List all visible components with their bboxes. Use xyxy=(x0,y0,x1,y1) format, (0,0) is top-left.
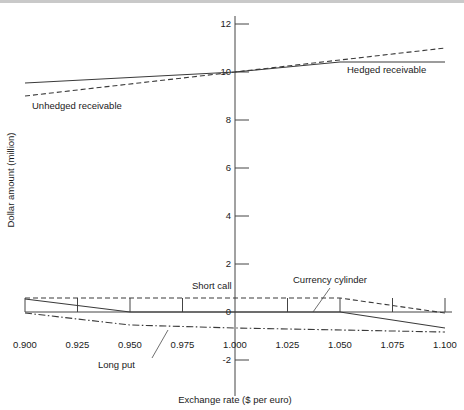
y-tick-label-2: 2 xyxy=(226,258,231,269)
y-tick-label-8: 8 xyxy=(226,114,231,125)
annotation-short-call: Short call xyxy=(192,280,232,291)
chart-figure: 12 10 8 6 4 2 0 -2 0.900 0.925 0.950 0.9… xyxy=(0,0,464,410)
y-tick-labels: 12 10 8 6 4 2 0 -2 xyxy=(220,18,231,365)
x-tick-label-1075: 1.075 xyxy=(381,339,405,350)
x-tick-label-0975: 0.975 xyxy=(171,339,195,350)
y-axis-title: Dollar amount (million) xyxy=(5,132,16,227)
x-tick-label-1100: 1.100 xyxy=(433,339,457,350)
y-tick-label-minus2: -2 xyxy=(223,354,231,365)
y-tick-label-6: 6 xyxy=(226,162,231,173)
x-axis-title: Exchange rate ($ per euro) xyxy=(178,394,292,405)
annotation-currency-cylinder: Currency cylinder xyxy=(293,274,367,285)
x-tick-labels: 0.900 0.925 0.950 0.975 1.000 1.025 1.05… xyxy=(13,339,457,350)
y-tick-label-4: 4 xyxy=(226,210,231,221)
x-tick-label-1000: 1.000 xyxy=(223,339,247,350)
x-tick-label-0950: 0.950 xyxy=(118,339,142,350)
leader-long-put xyxy=(152,330,168,358)
annotation-long-put: Long put xyxy=(98,359,135,370)
x-tick-label-1025: 1.025 xyxy=(276,339,300,350)
leader-currency-cylinder xyxy=(313,288,330,312)
annotation-hedged-receivable: Hedged receivable xyxy=(347,64,426,75)
x-tick-label-1050: 1.050 xyxy=(328,339,352,350)
y-tick-label-10: 10 xyxy=(220,66,231,77)
x-tick-label-0900: 0.900 xyxy=(13,339,37,350)
y-tick-marks xyxy=(235,24,249,360)
y-tick-label-12: 12 xyxy=(220,18,231,29)
x-tick-label-0925: 0.925 xyxy=(66,339,90,350)
chart-svg: 12 10 8 6 4 2 0 -2 0.900 0.925 0.950 0.9… xyxy=(0,0,464,410)
annotation-unhedged-receivable: Unhedged receivable xyxy=(32,100,122,111)
